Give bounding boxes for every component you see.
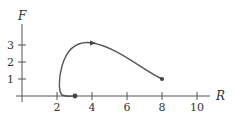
x-tick-label: 10 (190, 101, 204, 114)
y-tick-label: 3 (7, 39, 14, 52)
phase-plot: 1 2 3 2 4 6 8 10 F R (0, 0, 233, 121)
x-tick-label: 2 (54, 101, 61, 114)
x-tick-label: 6 (124, 101, 131, 114)
direction-arrow-icon (90, 41, 96, 46)
y-tick-label: 2 (7, 56, 14, 69)
end-point-marker (73, 94, 78, 99)
x-axis-label: R (215, 89, 225, 103)
x-tick-label: 4 (89, 101, 96, 114)
y-axis-label: F (17, 9, 27, 23)
y-tick-label: 1 (7, 73, 14, 86)
trajectory-curve (59, 43, 162, 97)
start-point-marker (160, 77, 164, 81)
x-tick-label: 8 (159, 101, 166, 114)
